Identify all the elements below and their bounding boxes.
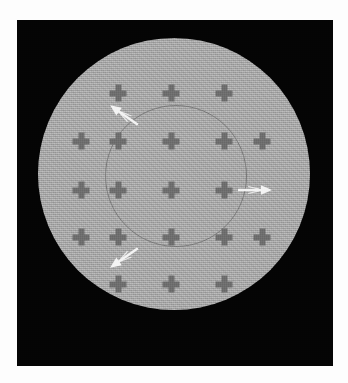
- cross-marker: [254, 133, 271, 150]
- cross-marker-vertical-bar: [78, 182, 84, 199]
- screenshot-canvas: phantom-scan-image: [0, 0, 348, 383]
- cross-marker: [110, 229, 127, 246]
- cross-marker: [73, 133, 90, 150]
- cross-marker: [163, 229, 180, 246]
- cross-marker-vertical-bar: [115, 133, 121, 150]
- cross-marker: [216, 133, 233, 150]
- cross-marker-vertical-bar: [115, 229, 121, 246]
- cross-marker: [110, 182, 127, 199]
- cross-marker: [216, 182, 233, 199]
- cross-marker-vertical-bar: [168, 229, 174, 246]
- cross-marker-vertical-bar: [168, 182, 174, 199]
- cross-marker-vertical-bar: [221, 229, 227, 246]
- cross-marker: [216, 229, 233, 246]
- cross-marker-vertical-bar: [115, 182, 121, 199]
- cross-marker: [110, 133, 127, 150]
- cross-marker-vertical-bar: [78, 229, 84, 246]
- cross-marker-vertical-bar: [168, 133, 174, 150]
- cross-marker-vertical-bar: [78, 133, 84, 150]
- cross-marker: [110, 276, 127, 293]
- cross-marker-vertical-bar: [168, 276, 174, 293]
- cross-marker: [216, 276, 233, 293]
- cross-marker-vertical-bar: [259, 229, 265, 246]
- cross-marker-vertical-bar: [168, 85, 174, 102]
- cross-marker-vertical-bar: [259, 133, 265, 150]
- inner-boundary-circle: [105, 105, 247, 247]
- scan-image-plate: [17, 20, 333, 366]
- cross-marker-vertical-bar: [115, 276, 121, 293]
- cross-marker: [163, 182, 180, 199]
- cross-marker: [216, 85, 233, 102]
- cross-marker: [73, 229, 90, 246]
- cross-marker-vertical-bar: [221, 182, 227, 199]
- cross-marker-vertical-bar: [221, 276, 227, 293]
- cross-marker: [254, 229, 271, 246]
- cross-marker-vertical-bar: [221, 133, 227, 150]
- cross-marker: [163, 85, 180, 102]
- cross-marker: [110, 85, 127, 102]
- cross-marker: [73, 182, 90, 199]
- cross-marker-vertical-bar: [115, 85, 121, 102]
- cross-marker: [163, 133, 180, 150]
- cross-marker: [163, 276, 180, 293]
- cross-marker-vertical-bar: [221, 85, 227, 102]
